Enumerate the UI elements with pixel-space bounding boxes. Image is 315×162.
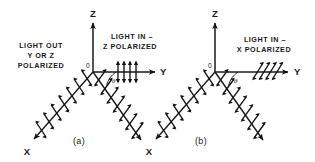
panel-a-y-axis-label: Y <box>160 66 167 77</box>
light-in-b-line-2: X POLARIZED <box>237 45 291 54</box>
light-out-line-3: POLARIZED <box>18 61 64 70</box>
panel-b-z-axis: Z <box>212 8 218 72</box>
panel-b-y-axis-label: Y <box>294 66 301 77</box>
panel-b-z-axis-label: Z <box>212 8 218 19</box>
panel-b: Z Y X 0 θ <box>146 8 301 157</box>
scattering-geometry-figure: Z Y X 0 θ <box>0 0 315 162</box>
panel-a-z-axis-label: Z <box>90 8 96 19</box>
panel-b-right-ray-polarization <box>216 69 266 139</box>
panel-b-light-in-label: LIGHT IN – X POLARIZED <box>237 35 291 54</box>
light-in-b-line-1: LIGHT IN – <box>244 35 286 44</box>
panel-a-caption: (a) <box>73 136 85 146</box>
light-out-line-2: Y OR Z <box>27 51 54 60</box>
panel-b-x-axis-label: X <box>146 146 153 157</box>
light-out-line-1: LIGHT OUT <box>19 41 63 50</box>
panel-a-light-out-label: LIGHT OUT Y OR Z POLARIZED <box>18 41 64 70</box>
panel-a: Z Y X 0 θ <box>18 8 167 157</box>
light-in-line-2: Z POLARIZED <box>103 42 157 51</box>
panel-b-incoming-beam-x-polarized <box>252 62 284 81</box>
panel-a-origin-label: 0 <box>86 62 90 69</box>
panel-b-caption: (b) <box>195 136 207 146</box>
panel-a-z-axis: Z <box>90 8 96 72</box>
panel-a-light-in-label: LIGHT IN – Z POLARIZED <box>103 32 157 51</box>
light-in-line-1: LIGHT IN – <box>111 32 153 41</box>
panel-b-origin-label: 0 <box>208 62 212 69</box>
panel-a-x-axis-label: X <box>24 146 31 157</box>
